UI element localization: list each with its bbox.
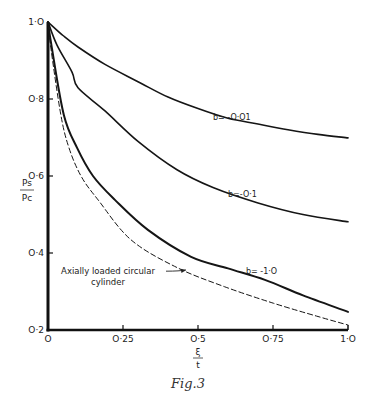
x-axis-label-numerator: ξ (195, 347, 200, 357)
x-tick-label: O (44, 334, 51, 344)
annotation-arrowhead-icon (181, 269, 186, 273)
series-line-b-0-1 (48, 22, 348, 222)
series-label-b-1-0: b= -1·O (246, 267, 277, 276)
chart: OO·25O·5O·751·O O·2O·4O·6O·81·O b= -O·O1… (0, 0, 367, 402)
y-tick-label: O·2 (28, 325, 44, 335)
y-axis-label: Ps Pc (20, 178, 34, 203)
series-labels: b= -O·O1b=-O·1b= -1·O (213, 113, 277, 276)
x-tick-label: 1·O (340, 334, 356, 344)
x-tick-label: O·5 (190, 334, 206, 344)
annotation-text-line1: Axially loaded circular (61, 266, 155, 276)
y-tick-label: 1·O (28, 17, 44, 27)
x-tick-label: O·25 (112, 334, 133, 344)
annotation-text-line2: cylinder (91, 277, 125, 287)
y-axis-label-denominator: Pc (22, 193, 32, 203)
annotations: Axially loaded circularcylinder (61, 266, 186, 287)
x-axis-label-denominator: t (196, 360, 200, 370)
x-ticks: OO·25O·5O·751·O (44, 325, 355, 344)
y-tick-label: O·4 (28, 248, 44, 258)
y-tick-label: O·8 (28, 94, 44, 104)
series-label-b-0-01: b= -O·O1 (213, 113, 251, 122)
figure-caption: Fig.3 (170, 376, 205, 391)
series-line-b-0-01 (48, 22, 348, 138)
x-tick-label: O·75 (262, 334, 283, 344)
x-axis-label: ξ t (193, 347, 203, 370)
series-label-b-0-1: b=-O·1 (228, 190, 257, 199)
y-axis-label-numerator: Ps (22, 178, 32, 188)
